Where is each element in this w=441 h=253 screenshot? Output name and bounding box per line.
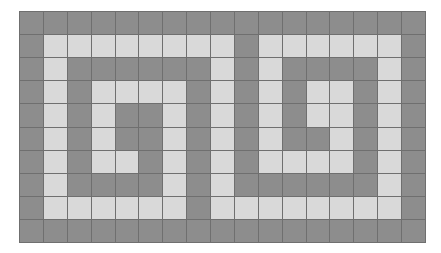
dark-cell [139, 128, 162, 150]
dark-cell [116, 220, 139, 242]
dark-cell [235, 12, 258, 34]
light-cell [235, 197, 258, 219]
dark-cell [354, 174, 377, 196]
dark-cell [330, 12, 353, 34]
dark-cell [163, 58, 186, 80]
dark-cell [354, 12, 377, 34]
dark-cell [354, 58, 377, 80]
light-cell [378, 197, 401, 219]
dark-cell [187, 81, 210, 103]
light-cell [116, 197, 139, 219]
dark-cell [354, 220, 377, 242]
dark-cell [116, 174, 139, 196]
dark-cell [20, 174, 43, 196]
dark-cell [68, 220, 91, 242]
dark-cell [20, 58, 43, 80]
dark-cell [402, 151, 425, 173]
light-cell [259, 35, 282, 57]
dark-cell [402, 35, 425, 57]
dark-cell [259, 174, 282, 196]
dark-cell [139, 104, 162, 126]
dark-cell [68, 81, 91, 103]
light-cell [92, 197, 115, 219]
dark-cell [92, 58, 115, 80]
dark-cell [402, 104, 425, 126]
light-cell [68, 35, 91, 57]
light-cell [163, 151, 186, 173]
light-cell [139, 81, 162, 103]
light-cell [378, 128, 401, 150]
dark-cell [44, 220, 67, 242]
light-cell [378, 104, 401, 126]
dark-cell [402, 81, 425, 103]
light-cell [211, 58, 234, 80]
dark-cell [235, 220, 258, 242]
dark-cell [283, 12, 306, 34]
dark-cell [116, 12, 139, 34]
dark-cell [20, 104, 43, 126]
dark-cell [139, 220, 162, 242]
dark-cell [235, 58, 258, 80]
light-cell [259, 151, 282, 173]
light-cell [44, 81, 67, 103]
light-cell [259, 58, 282, 80]
dark-cell [402, 58, 425, 80]
light-cell [283, 151, 306, 173]
dark-cell [187, 151, 210, 173]
dark-cell [187, 174, 210, 196]
dark-cell [187, 220, 210, 242]
dark-cell [68, 12, 91, 34]
dark-cell [20, 35, 43, 57]
dark-cell [92, 12, 115, 34]
light-cell [92, 104, 115, 126]
light-cell [211, 104, 234, 126]
dark-cell [235, 104, 258, 126]
light-cell [92, 128, 115, 150]
dark-cell [20, 128, 43, 150]
light-cell [44, 151, 67, 173]
dark-cell [20, 81, 43, 103]
light-cell [211, 81, 234, 103]
dark-cell [235, 35, 258, 57]
light-cell [116, 81, 139, 103]
light-cell [44, 58, 67, 80]
dark-cell [283, 104, 306, 126]
light-cell [211, 151, 234, 173]
dark-cell [402, 12, 425, 34]
light-cell [92, 151, 115, 173]
light-cell [259, 104, 282, 126]
dark-cell [139, 12, 162, 34]
light-cell [44, 35, 67, 57]
dark-cell [116, 128, 139, 150]
dark-cell [283, 220, 306, 242]
dark-cell [20, 220, 43, 242]
light-cell [330, 35, 353, 57]
dark-cell [307, 58, 330, 80]
light-cell [92, 81, 115, 103]
light-cell [259, 197, 282, 219]
dark-cell [378, 12, 401, 34]
dark-cell [139, 58, 162, 80]
pattern-canvas [0, 0, 441, 253]
dark-cell [68, 174, 91, 196]
light-cell [163, 174, 186, 196]
dark-cell [307, 220, 330, 242]
light-cell [330, 151, 353, 173]
light-cell [44, 128, 67, 150]
dark-cell [330, 220, 353, 242]
dark-cell [68, 151, 91, 173]
dark-cell [139, 151, 162, 173]
light-cell [354, 35, 377, 57]
dark-cell [20, 12, 43, 34]
dark-cell [259, 12, 282, 34]
dark-cell [187, 197, 210, 219]
light-cell [378, 35, 401, 57]
dark-cell [68, 128, 91, 150]
light-cell [378, 174, 401, 196]
dark-cell [354, 151, 377, 173]
light-cell [139, 35, 162, 57]
dark-cell [402, 197, 425, 219]
dark-cell [20, 151, 43, 173]
light-cell [187, 35, 210, 57]
light-cell [330, 197, 353, 219]
